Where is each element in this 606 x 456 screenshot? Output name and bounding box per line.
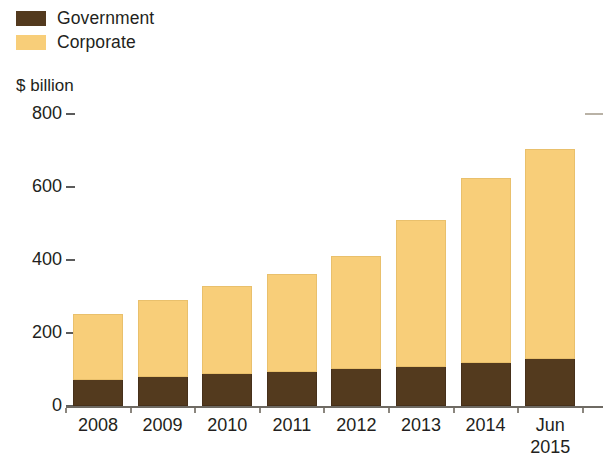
y-axis-tick-label: 800 (6, 103, 62, 123)
bar-segment-government (461, 363, 511, 406)
x-axis-tick-label: 2008 (63, 414, 133, 436)
bar-segment-corporate (267, 274, 317, 372)
bar-segment-government (138, 377, 188, 406)
x-axis-tick-mark (130, 408, 132, 413)
x-axis-tick-label: 2011 (257, 414, 327, 436)
x-axis-tick-mark (582, 408, 584, 413)
y-axis-tick-mark (66, 186, 75, 188)
bar-segment-government (73, 380, 123, 406)
y-axis-tick-value: 0 (52, 395, 62, 415)
bar-column (461, 178, 511, 406)
bar-segment-corporate (202, 286, 252, 374)
x-axis-tick-label: 2010 (192, 414, 262, 436)
x-axis-tick-label: 2009 (128, 414, 198, 436)
y-axis-tick-label: 0 (6, 395, 62, 415)
bar-segment-corporate (461, 178, 511, 363)
x-axis-tick-mark (65, 408, 67, 413)
x-axis-tick-label: Jun 2015 (515, 414, 585, 456)
x-axis-tick-mark (517, 408, 519, 413)
y-axis-tick-value: 200 (32, 322, 62, 342)
bar-segment-government (202, 374, 252, 406)
bar-segment-government (525, 359, 575, 406)
y-axis-tick-value: 600 (32, 176, 62, 196)
bar-segment-government (331, 369, 381, 406)
y-axis-tick-value: 400 (32, 249, 62, 269)
bar-column (331, 256, 381, 406)
y-axis-tick-mark (66, 259, 75, 261)
bar-segment-corporate (331, 256, 381, 369)
bar-column (202, 286, 252, 406)
x-axis-tick-mark (194, 408, 196, 413)
bar-column (73, 314, 123, 406)
x-axis-tick-mark (453, 408, 455, 413)
y-axis-tick-value: 800 (32, 103, 62, 123)
plot-area: 8006004002000200820092010201120122013201… (0, 0, 606, 420)
y-axis-tick-mark (66, 113, 75, 115)
y-axis-right-tick-mark (585, 113, 603, 115)
bar-column (525, 149, 575, 406)
x-axis-tick-mark (388, 408, 390, 413)
stacked-bar-chart: Government Corporate $ billion 800600400… (0, 0, 606, 456)
bar-column (267, 274, 317, 406)
bar-segment-corporate (138, 300, 188, 377)
y-axis-tick-label: 600 (6, 176, 62, 196)
x-axis-tick-label: 2013 (386, 414, 456, 436)
bar-segment-government (396, 367, 446, 406)
bar-column (396, 220, 446, 406)
bar-segment-corporate (525, 149, 575, 359)
x-axis-tick-mark (323, 408, 325, 413)
x-axis-tick-label: 2012 (321, 414, 391, 436)
x-axis-tick-mark (259, 408, 261, 413)
bar-segment-corporate (396, 220, 446, 367)
x-axis-tick-label: 2014 (451, 414, 521, 436)
bar-column (138, 300, 188, 406)
bar-segment-government (267, 372, 317, 406)
x-axis-baseline (66, 406, 603, 408)
y-axis-tick-label: 400 (6, 249, 62, 269)
bar-segment-corporate (73, 314, 123, 380)
y-axis-tick-label: 200 (6, 322, 62, 342)
